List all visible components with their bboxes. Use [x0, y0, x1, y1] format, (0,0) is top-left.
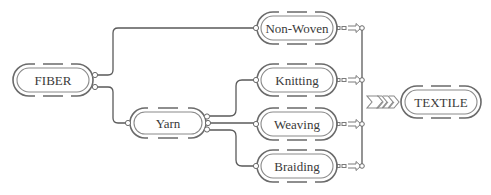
port-yarn-in [125, 120, 130, 125]
node-nonwoven[interactable]: Non-Woven [253, 12, 337, 44]
node-yarn[interactable]: Yarn [125, 108, 210, 138]
port-fiber-out-2 [92, 84, 97, 89]
node-fiber[interactable]: FIBER [13, 64, 98, 96]
port-knitting-in [253, 77, 258, 82]
arrow-nonwoven-icon [337, 24, 364, 33]
node-nonwoven-label: Non-Woven [265, 21, 329, 36]
node-weaving[interactable]: Weaving [253, 108, 337, 140]
connectors-yarn [209, 80, 254, 166]
node-weaving-label: Weaving [274, 117, 320, 132]
node-textile-label: TEXTILE [414, 95, 467, 110]
port-fiber-out-1 [92, 72, 97, 77]
port-braiding-in [253, 163, 258, 168]
node-braiding-label: Braiding [274, 159, 320, 174]
output-arrows [337, 24, 364, 171]
node-knitting[interactable]: Knitting [253, 64, 337, 96]
port-yarn-out-3 [204, 127, 209, 132]
arrow-braiding-icon [337, 162, 364, 171]
edge-fiber-nonwoven [95, 28, 254, 75]
node-braiding[interactable]: Braiding [253, 150, 337, 182]
port-weaving-in [253, 121, 258, 126]
edge-yarn-knitting [209, 80, 254, 116]
node-knitting-label: Knitting [275, 73, 319, 88]
arrow-weaving-icon [337, 120, 364, 129]
node-textile[interactable]: TEXTILE [401, 86, 481, 118]
port-yarn-out-2 [205, 120, 210, 125]
port-nonwoven-in [253, 25, 258, 30]
fiber-to-textile-diagram: FIBER Yarn Non-Woven Knitting [0, 0, 491, 195]
arrow-knitting-icon [337, 76, 364, 85]
port-yarn-out-1 [204, 114, 209, 119]
node-yarn-label: Yarn [156, 116, 181, 131]
edge-yarn-braiding [209, 130, 254, 166]
edge-fiber-yarn [95, 87, 127, 123]
chevron-arrows-icon [367, 96, 399, 108]
node-fiber-label: FIBER [35, 73, 72, 88]
